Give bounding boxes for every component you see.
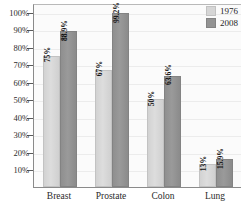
legend-item-2008: 2008 <box>206 18 238 28</box>
bar-value-label: 67% <box>96 61 104 76</box>
chart-legend: 1976 2008 <box>206 6 238 28</box>
x-tick-label: Colon <box>137 192 189 202</box>
bar: 88.9% <box>60 31 77 187</box>
y-tick-label: 30% <box>0 131 29 140</box>
bar-value-label: 63.6% <box>165 64 173 85</box>
y-tick-label: 10% <box>0 166 29 175</box>
legend-swatch-2008 <box>206 18 216 28</box>
bar-chart: 75%88.9%67%99.2%50%63.6%13%15.9% 100%90%… <box>0 0 245 213</box>
y-tick-label: 40% <box>0 114 29 123</box>
bar: 75% <box>43 56 60 187</box>
bar: 67% <box>95 70 112 187</box>
plot-area: 75%88.9%67%99.2%50%63.6%13%15.9% <box>33 4 241 188</box>
bar: 15.9% <box>216 159 233 187</box>
y-tick-label: 20% <box>0 149 29 158</box>
bar-group: 75%88.9% <box>43 5 77 187</box>
legend-swatch-1976 <box>206 6 216 16</box>
y-tick-label: 90% <box>0 26 29 35</box>
bar-value-label: 88.9% <box>61 20 69 41</box>
legend-item-1976: 1976 <box>206 6 238 16</box>
bar-value-label: 50% <box>148 91 156 106</box>
bar: 63.6% <box>164 76 181 187</box>
bar-group: 13%15.9% <box>199 5 233 187</box>
bar-group: 67%99.2% <box>95 5 129 187</box>
bar: 13% <box>199 164 216 187</box>
y-tick-label: 60% <box>0 79 29 88</box>
bar-value-label: 15.9% <box>217 148 225 169</box>
bar-group: 50%63.6% <box>147 5 181 187</box>
bar-value-label: 75% <box>44 47 52 62</box>
legend-label-2008: 2008 <box>220 19 238 28</box>
x-tick-label: Lung <box>189 192 241 202</box>
y-tick-label: 70% <box>0 61 29 70</box>
y-tick-label: 100% <box>0 9 29 18</box>
legend-label-1976: 1976 <box>220 7 238 16</box>
y-tick-label: 80% <box>0 44 29 53</box>
x-tick-label: Prostate <box>85 192 137 202</box>
bar: 99.2% <box>112 13 129 187</box>
y-tick-label: 50% <box>0 96 29 105</box>
bar-value-label: 99.2% <box>113 2 121 23</box>
bar-value-label: 13% <box>200 156 208 171</box>
bar: 50% <box>147 99 164 187</box>
x-tick-label: Breast <box>33 192 85 202</box>
